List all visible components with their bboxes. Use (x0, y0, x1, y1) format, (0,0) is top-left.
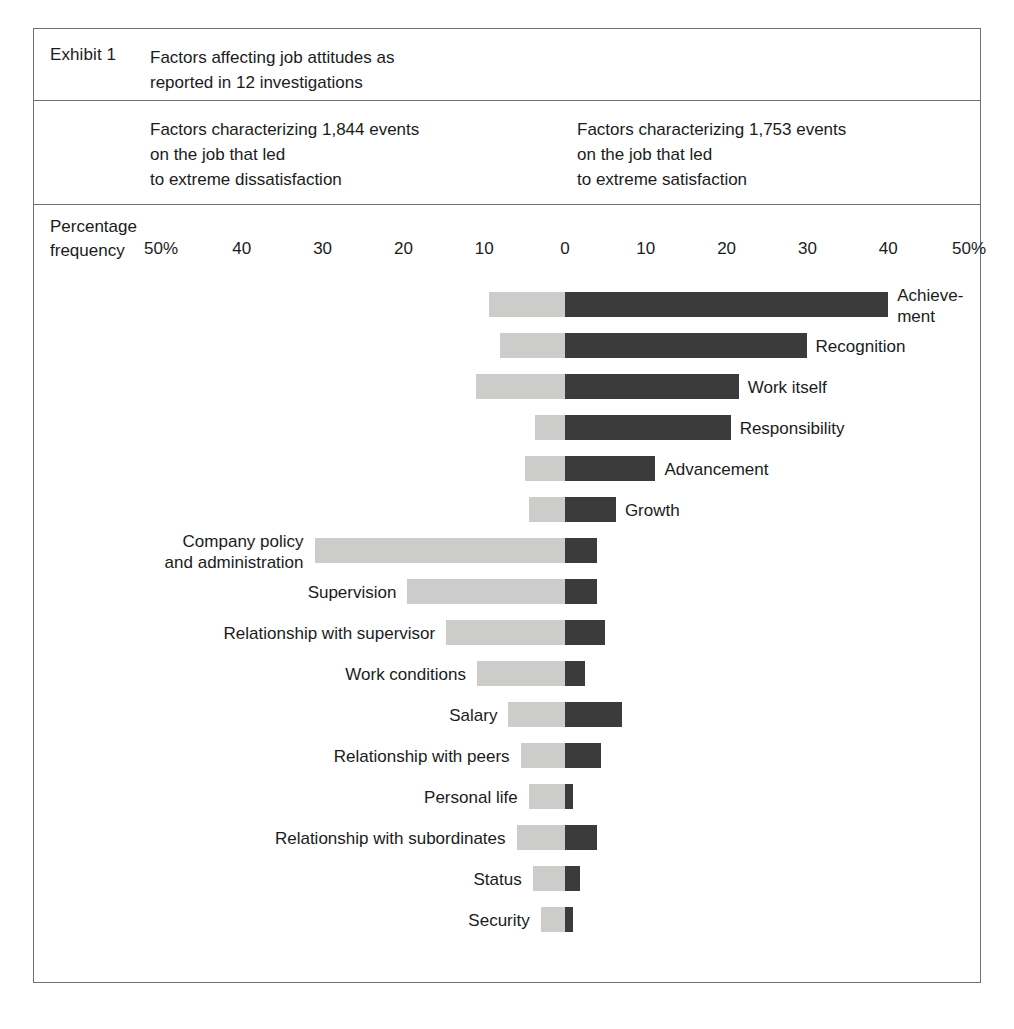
bar-label: Recognition (816, 336, 906, 357)
bar-label: Relationship with peers (334, 746, 510, 767)
axis-tick-0: 0 (560, 239, 569, 259)
chart-row: Relationship with peers (34, 740, 980, 770)
exhibit-number-label: Exhibit 1 (50, 45, 116, 65)
axis-tick-20: 20 (717, 239, 736, 259)
axis-tick-10: 10 (475, 239, 494, 259)
bar-label: Personal life (424, 787, 518, 808)
bar-dissatisfaction (541, 907, 565, 932)
bar-label: Supervision (308, 582, 397, 603)
bar-dissatisfaction (535, 415, 565, 440)
axis-tick-30: 30 (313, 239, 332, 259)
satisfaction-column-header: Factors characterizing 1,753 events on t… (577, 117, 846, 192)
axis-tick-40: 40 (879, 239, 898, 259)
chart-plot-area: Achieve- mentRecognitionWork itselfRespo… (34, 267, 980, 981)
chart-row: Company policy and administration (34, 535, 980, 565)
axis-tick-20: 20 (394, 239, 413, 259)
bar-label: Security (468, 910, 529, 931)
bar-dissatisfaction (517, 825, 565, 850)
bar-dissatisfaction (315, 538, 565, 563)
bar-satisfaction (565, 538, 597, 563)
bar-satisfaction (565, 579, 597, 604)
bar-satisfaction (565, 415, 731, 440)
chart-row: Status (34, 863, 980, 893)
chart-row: Work conditions (34, 658, 980, 688)
axis-tick-50: 50% (144, 239, 178, 259)
bar-dissatisfaction (500, 333, 565, 358)
chart-row: Salary (34, 699, 980, 729)
bar-dissatisfaction (525, 456, 565, 481)
bar-label: Status (473, 869, 521, 890)
bar-label: Growth (625, 500, 680, 521)
bar-label: Relationship with subordinates (275, 828, 506, 849)
bar-satisfaction (565, 292, 888, 317)
chart-row: Advancement (34, 453, 980, 483)
bar-dissatisfaction (476, 374, 565, 399)
bar-dissatisfaction (489, 292, 565, 317)
chart-row: Recognition (34, 330, 980, 360)
bar-satisfaction (565, 784, 573, 809)
chart-row: Achieve- ment (34, 289, 980, 319)
bar-dissatisfaction (521, 743, 565, 768)
bar-label: Advancement (664, 459, 768, 480)
bar-label: Responsibility (740, 418, 845, 439)
bar-satisfaction (565, 907, 573, 932)
bar-satisfaction (565, 620, 605, 645)
axis-caption: Percentage frequency (50, 215, 137, 263)
bar-dissatisfaction (477, 661, 565, 686)
bar-satisfaction (565, 456, 655, 481)
chart-row: Relationship with subordinates (34, 822, 980, 852)
bar-satisfaction (565, 702, 622, 727)
bar-satisfaction (565, 866, 580, 891)
exhibit-title: Factors affecting job attitudes as repor… (150, 45, 394, 95)
axis-tick-40: 40 (232, 239, 251, 259)
chart-row: Work itself (34, 371, 980, 401)
bar-label: Salary (449, 705, 497, 726)
bar-label: Achieve- ment (897, 285, 963, 327)
bar-dissatisfaction (533, 866, 565, 891)
chart-row: Growth (34, 494, 980, 524)
axis-tick-50: 50% (952, 239, 986, 259)
exhibit-title-band: Exhibit 1 Factors affecting job attitude… (34, 29, 980, 101)
chart-row: Relationship with supervisor (34, 617, 980, 647)
bar-label: Work conditions (345, 664, 466, 685)
chart-row: Responsibility (34, 412, 980, 442)
bar-dissatisfaction (529, 497, 565, 522)
bar-label: Company policy and administration (165, 531, 304, 573)
bar-dissatisfaction (508, 702, 565, 727)
column-headers-band: Factors characterizing 1,844 events on t… (34, 101, 980, 205)
chart-row: Personal life (34, 781, 980, 811)
exhibit-panel: Exhibit 1 Factors affecting job attitude… (33, 28, 981, 983)
bar-satisfaction (565, 825, 597, 850)
bar-dissatisfaction (529, 784, 565, 809)
bar-satisfaction (565, 661, 585, 686)
axis-tick-10: 10 (636, 239, 655, 259)
bar-label: Relationship with supervisor (224, 623, 436, 644)
axis-tick-30: 30 (798, 239, 817, 259)
chart-row: Security (34, 904, 980, 934)
bar-satisfaction (565, 333, 807, 358)
bar-dissatisfaction (446, 620, 565, 645)
dissatisfaction-column-header: Factors characterizing 1,844 events on t… (150, 117, 419, 192)
axis-band: Percentage frequency 50%4030201001020304… (34, 205, 980, 267)
bar-satisfaction (565, 743, 601, 768)
chart-row: Supervision (34, 576, 980, 606)
bar-satisfaction (565, 374, 739, 399)
bar-label: Work itself (748, 377, 827, 398)
bar-satisfaction (565, 497, 616, 522)
bar-dissatisfaction (407, 579, 565, 604)
